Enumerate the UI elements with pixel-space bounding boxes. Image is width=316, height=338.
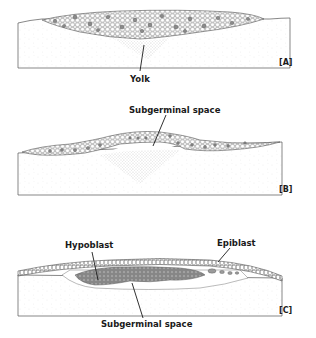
label-yolk: Yolk xyxy=(129,74,150,84)
panel-a: Yolk [A] xyxy=(18,10,293,84)
panel-label-a: [A] xyxy=(279,58,293,67)
label-epiblast: Epiblast xyxy=(217,238,256,248)
panel-c: Hypoblast Epiblast Subgerminal space [C] xyxy=(18,238,292,329)
label-subgerminal-space-b: Subgerminal space xyxy=(129,105,221,115)
epiblast-pointer-c xyxy=(218,248,230,262)
panel-label-c: [C] xyxy=(279,306,292,315)
embryo-diagram: Yolk [A] Subgerminal space [B] Hypo xyxy=(0,0,316,338)
panel-label-b: [B] xyxy=(279,185,292,194)
panel-b: Subgerminal space [B] xyxy=(18,105,292,195)
label-subgerminal-space-c: Subgerminal space xyxy=(101,319,193,329)
label-hypoblast: Hypoblast xyxy=(65,240,113,250)
